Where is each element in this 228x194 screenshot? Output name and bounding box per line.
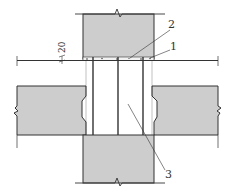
left-slab xyxy=(14,86,86,148)
right-slab xyxy=(152,86,221,148)
rods xyxy=(93,57,143,136)
label-3: 3 xyxy=(165,168,172,181)
structural-joint-diagram: 20 2 1 3 xyxy=(0,0,228,194)
label-2: 2 xyxy=(168,18,175,31)
dimension-label: 20 xyxy=(57,41,67,53)
label-1: 1 xyxy=(170,40,177,53)
lower-column xyxy=(75,135,165,186)
upper-column xyxy=(75,9,165,59)
joint-edges xyxy=(86,60,152,135)
